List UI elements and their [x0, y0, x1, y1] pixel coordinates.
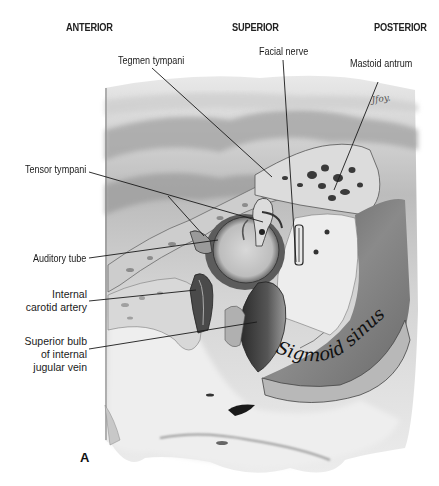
label-internal-carotid-line1: Internal — [26, 288, 87, 301]
label-internal-carotid-line2: carotid artery — [26, 301, 87, 314]
label-facial-nerve: Facial nerve — [259, 45, 308, 58]
label-tensor-tympani: Tensor tympani — [25, 163, 86, 176]
label-superior-bulb-jugular-vein: Superior bulb of internal jugular vein — [25, 335, 87, 374]
label-internal-carotid-artery: Internal carotid artery — [26, 288, 87, 313]
label-jugular-line2: of internal — [25, 348, 87, 361]
label-mastoid-antrum: Mastoid antrum — [350, 57, 412, 70]
label-jugular-line1: Superior bulb — [25, 335, 87, 348]
label-auditory-tube: Auditory tube — [33, 252, 86, 265]
label-tegmen-tympani: Tegmen tympani — [118, 54, 184, 67]
temporal-bone-illustration: Sigmoid sinus Jfoy. — [0, 0, 439, 486]
panel-label: A — [80, 450, 89, 465]
label-jugular-line3: jugular vein — [25, 361, 87, 374]
